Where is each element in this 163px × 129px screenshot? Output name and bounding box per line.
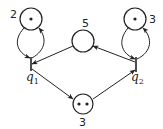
arc-place-top-left-to-q1 bbox=[17, 28, 30, 58]
place-top-right bbox=[124, 8, 146, 30]
token bbox=[77, 102, 80, 105]
place-top-left bbox=[20, 8, 42, 30]
arc-q2-to-place-top-right bbox=[137, 28, 150, 59]
arc-q1-to-place-top-left bbox=[32, 28, 44, 58]
arc-q2-to-place-center bbox=[93, 46, 135, 62]
petri-net-diagram: 2 3 5 3 q1 q2 bbox=[0, 0, 163, 129]
place-bottom-label: 3 bbox=[79, 116, 86, 129]
arc-place-center-to-q1 bbox=[32, 46, 73, 64]
token bbox=[133, 17, 136, 20]
place-center bbox=[72, 30, 94, 52]
arc-place-bottom-to-q2 bbox=[93, 70, 135, 99]
place-top-right-label: 3 bbox=[149, 13, 156, 26]
token bbox=[85, 102, 88, 105]
transition-q2-label: q2 bbox=[131, 70, 144, 86]
token bbox=[29, 17, 32, 20]
arc-place-top-right-to-q2 bbox=[122, 28, 135, 59]
place-bottom bbox=[73, 94, 93, 114]
place-center-label: 5 bbox=[82, 17, 89, 30]
place-top-left-label: 2 bbox=[10, 8, 17, 21]
